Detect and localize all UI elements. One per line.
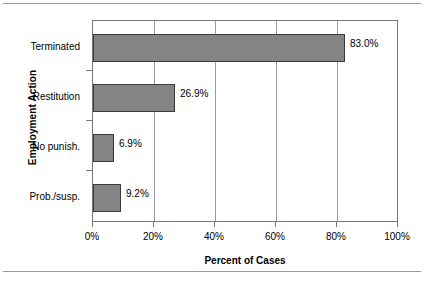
bar-label-terminated: 83.0% (350, 38, 378, 49)
bar-label-prob-susp: 9.2% (126, 188, 149, 199)
x-tick-40 (214, 222, 215, 227)
bar-row-restitution: 26.9% (93, 73, 397, 123)
x-tick-80 (336, 222, 337, 227)
bar-row-prob-susp: 9.2% (93, 173, 397, 223)
bar-prob-susp[interactable] (93, 184, 121, 212)
plot-area: 83.0% 26.9% 6.9% 9.2% (92, 20, 398, 222)
x-tick-label-60: 60% (250, 231, 300, 242)
bar-terminated[interactable] (93, 34, 345, 62)
y-axis-title: Employment Action (27, 38, 38, 198)
y-category-terminated: Terminated (0, 41, 80, 52)
chart-figure: Employment Action Percent of Cases 83.0%… (0, 0, 424, 282)
bar-label-restitution: 26.9% (180, 88, 208, 99)
y-category-prob-susp: Prob./susp. (0, 191, 80, 202)
bar-label-no-punish: 6.9% (119, 138, 142, 149)
bar-restitution[interactable] (93, 84, 175, 112)
bar-row-no-punish: 6.9% (93, 123, 397, 173)
x-tick-60 (275, 222, 276, 227)
x-tick-label-40: 40% (189, 231, 239, 242)
x-tick-label-0: 0% (67, 231, 117, 242)
x-tick-0 (92, 222, 93, 227)
y-category-no-punish: No punish. (0, 141, 80, 152)
bar-no-punish[interactable] (93, 134, 114, 162)
y-tick-0 (86, 70, 92, 71)
x-tick-label-20: 20% (128, 231, 178, 242)
x-tick-20 (153, 222, 154, 227)
figure-top-rule (3, 3, 421, 4)
y-category-restitution: Restitution (0, 91, 80, 102)
y-tick-1 (86, 120, 92, 121)
x-tick-100 (397, 222, 398, 227)
figure-bottom-rule (3, 271, 421, 272)
x-tick-label-100: 100% (372, 231, 422, 242)
x-tick-label-80: 80% (311, 231, 361, 242)
bar-row-terminated: 83.0% (93, 23, 397, 73)
y-tick-2 (86, 170, 92, 171)
x-axis-title: Percent of Cases (92, 255, 398, 266)
